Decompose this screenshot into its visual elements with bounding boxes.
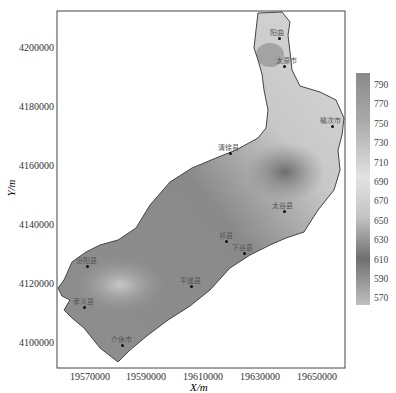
city-label: 阳曲 (270, 27, 284, 37)
map-plot (0, 0, 396, 393)
y-tick: 4100000 (2, 337, 54, 348)
city-label: 太谷县 (272, 200, 293, 210)
city-label: 介休市 (111, 334, 132, 344)
y-tick: 4200000 (2, 42, 54, 53)
city-label: 太原市 (276, 55, 297, 65)
y-tick: 4120000 (2, 278, 54, 289)
city-label: 榆次市 (320, 115, 341, 125)
city-label: 孝义县 (73, 296, 94, 306)
colorbar (356, 73, 370, 305)
city-label: 平遥县 (180, 275, 201, 285)
y-tick: 4140000 (2, 219, 54, 230)
city-label: 清徐县 (218, 142, 239, 152)
y-tick: 4160000 (2, 160, 54, 171)
x-tick: 19650000 (282, 371, 352, 382)
city-label: 汾阳县 (76, 255, 97, 265)
colorbar-ticks: 790 770 750 730 710 690 670 650 630 610 … (374, 76, 388, 309)
city-label: 祁县 (219, 230, 233, 240)
x-axis-label: X/m (190, 381, 208, 393)
y-tick: 4180000 (2, 101, 54, 112)
y-axis-label: Y/m (5, 179, 17, 196)
city-label: 下谷县 (232, 242, 253, 252)
